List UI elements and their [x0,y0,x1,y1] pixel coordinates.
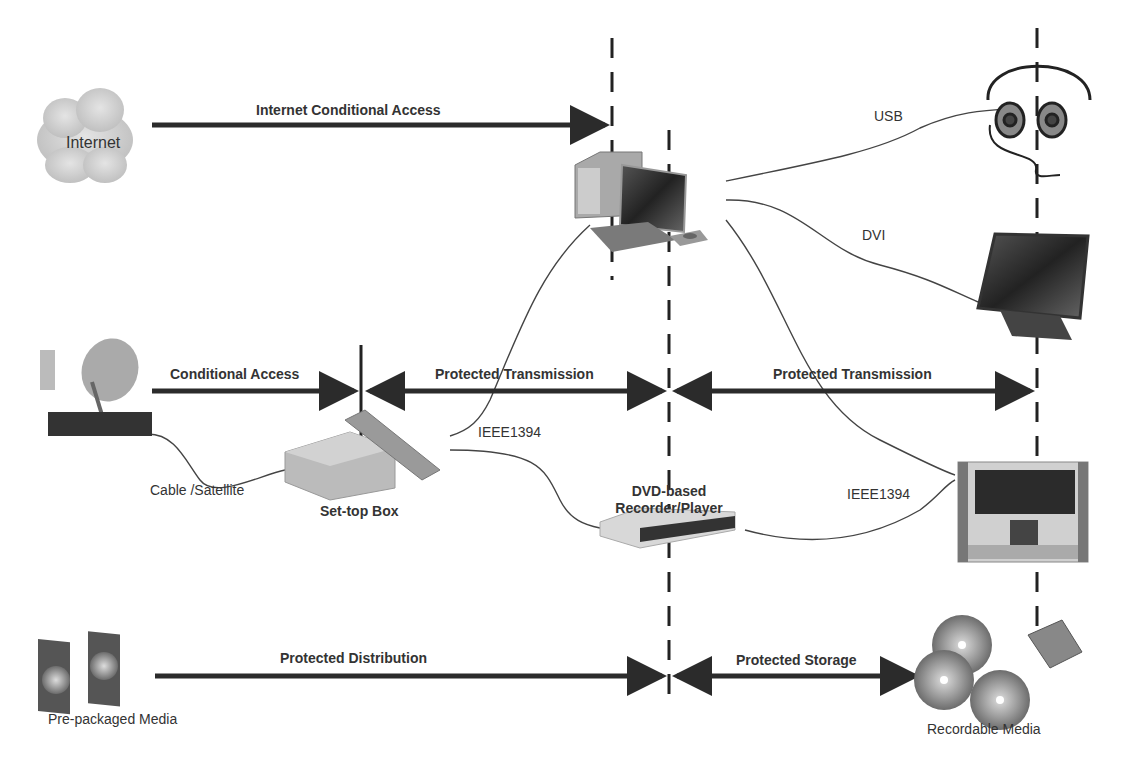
diagram-canvas [0,0,1134,766]
television-icon [958,462,1088,562]
ca-label: Conditional Access [170,366,299,382]
usb-label: USB [874,108,903,124]
pd-label: Protected Distribution [280,650,427,666]
ps-label: Protected Storage [736,652,857,668]
internet-ca-label: Internet Conditional Access [256,102,441,118]
pt1-label: Protected Transmission [435,366,594,382]
satellite-dish-icon [40,330,152,436]
usb-cable [726,108,1020,181]
ieee-cable-stb-pc [450,225,590,436]
dvd-label-line1: DVD-based [604,483,734,499]
set-top-box-label: Set-top Box [320,503,399,519]
recordable-discs-icon [914,615,1082,730]
cable-satellite-label: Cable /Satellite [150,482,244,498]
ieee-cable-stb-dvd [450,450,600,528]
ieee1394-tv-label: IEEE1394 [847,486,910,502]
dvd-label-line2: Recorder/Player [604,500,734,516]
dvi-label: DVI [862,227,885,243]
desktop-computer-icon [575,152,708,252]
set-top-box-icon [285,410,440,500]
content-protection-diagram: Internet Internet Conditional Access USB… [0,0,1134,766]
flat-monitor-icon [978,234,1088,340]
dvd-cases-icon [38,631,120,714]
recordable-media-label: Recordable Media [927,721,1041,737]
boundary-lines [612,28,1037,700]
pt2-label: Protected Transmission [773,366,932,382]
pre-packaged-media-label: Pre-packaged Media [48,711,177,727]
internet-label: Internet [66,135,120,151]
ieee-cable-pc-tv [726,220,955,475]
satellite-cable [148,434,285,488]
headphones-icon [988,66,1090,176]
dvi-cable [726,200,978,302]
ieee1394-stb-label: IEEE1394 [478,424,541,440]
